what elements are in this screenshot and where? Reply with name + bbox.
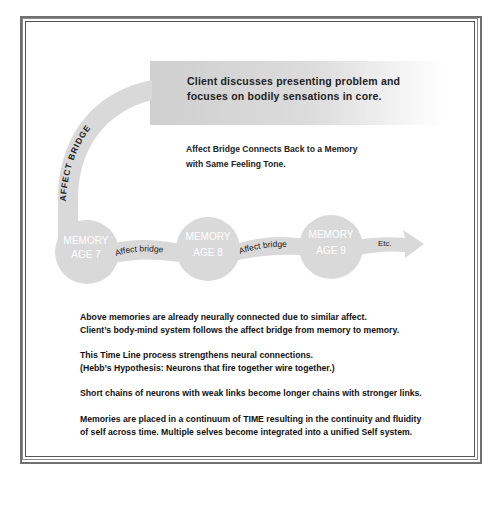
connect-note-line-2: with Same Feeling Tone.: [186, 157, 406, 172]
memory-9-line2: AGE 9: [316, 245, 346, 256]
note-paragraph-2: This Time Line process strengthens neura…: [80, 349, 460, 375]
explanatory-notes: Above memories are already neurally conn…: [80, 311, 460, 451]
note-1-line-1: Above memories are already neurally conn…: [80, 312, 367, 322]
etc-label: Etc.: [378, 239, 392, 248]
memory-7-line1: MEMORY: [64, 235, 109, 246]
note-2-line-2: (Hebb’s Hypothesis: Neurons that fire to…: [80, 363, 335, 373]
top-box-line-2: focuses on bodily sensations in core.: [187, 89, 447, 104]
note-paragraph-3: Short chains of neurons with weak links …: [80, 387, 460, 400]
note-2-line-1: This Time Line process strengthens neura…: [80, 350, 313, 360]
connect-note: Affect Bridge Connects Back to a Memory …: [186, 142, 406, 172]
note-4-line-1: Memories are placed in a continuum of TI…: [80, 414, 421, 424]
note-paragraph-1: Above memories are already neurally conn…: [80, 311, 460, 337]
memory-7-line2: AGE 7: [71, 249, 101, 260]
note-3-line-1: Short chains of neurons with weak links …: [80, 388, 422, 398]
top-box-line-1: Client discusses presenting problem and: [187, 74, 447, 89]
note-4-line-2: of self across time. Multiple selves bec…: [80, 427, 412, 437]
connect-note-line-1: Affect Bridge Connects Back to a Memory: [186, 142, 406, 157]
memory-8-line1: MEMORY: [186, 231, 231, 242]
note-1-line-2: Client’s body-mind system follows the af…: [80, 325, 399, 335]
note-paragraph-4: Memories are placed in a continuum of TI…: [80, 413, 460, 439]
top-box-text: Client discusses presenting problem and …: [187, 74, 447, 104]
memory-9-line1: MEMORY: [309, 229, 354, 240]
memory-8-line2: AGE 8: [193, 247, 223, 258]
